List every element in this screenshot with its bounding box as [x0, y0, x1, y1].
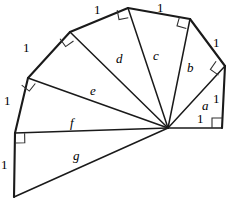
unit-label-right: 1 — [213, 92, 220, 105]
unit-label-left-upper: 1 — [23, 41, 30, 54]
spoke-g — [14, 128, 168, 197]
right-angle-marker-v5 — [22, 84, 36, 92]
right-angle-marker-v0 — [212, 118, 222, 128]
spiral-diagram-svg — [0, 0, 231, 203]
unit-label-upper-right: 1 — [213, 36, 220, 49]
spoke-group — [14, 8, 225, 197]
outer-edge-1 — [222, 66, 225, 128]
spoke-d — [70, 32, 168, 128]
spoke-c — [128, 8, 168, 128]
unit-label-top-right: 1 — [157, 1, 164, 14]
right-angle-group — [15, 10, 222, 143]
unit-label-left-lower: 1 — [4, 94, 11, 107]
hypotenuse-label-e: e — [90, 84, 96, 97]
hypotenuse-label-c: c — [153, 49, 159, 62]
spoke-f — [15, 128, 168, 133]
spiral-of-theodorus-figure: a b c d e f g 1 1 1 1 1 1 1 1 — [0, 0, 231, 203]
unit-label-base: 1 — [197, 112, 204, 125]
outer-edge-7 — [14, 133, 15, 197]
outer-edge-5 — [28, 32, 70, 78]
hypotenuse-label-b: b — [187, 61, 194, 74]
right-angle-marker-v6 — [15, 133, 25, 143]
hypotenuse-label-g: g — [73, 149, 80, 162]
outer-edge-group — [14, 8, 225, 197]
unit-label-bottom-left: 1 — [1, 158, 8, 171]
hypotenuse-label-f: f — [70, 116, 74, 129]
outer-edge-2 — [190, 19, 225, 66]
unit-label-top-left: 1 — [94, 3, 101, 16]
outer-edge-6 — [15, 78, 28, 133]
right-angle-marker-v1 — [210, 61, 218, 75]
spoke-e — [28, 78, 168, 128]
hypotenuse-label-d: d — [116, 52, 123, 65]
